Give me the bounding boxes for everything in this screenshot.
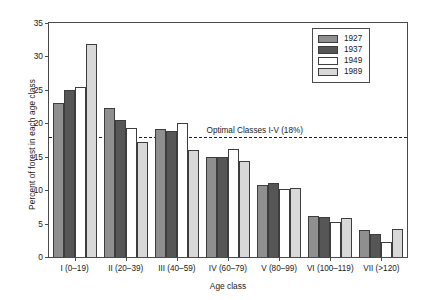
bar-group: I (0–19) <box>49 23 100 257</box>
legend-item[interactable]: 1937 <box>318 45 362 55</box>
bar-1927[interactable] <box>359 230 370 257</box>
x-axis-tick-mark <box>381 257 382 261</box>
x-axis-tick-mark <box>279 257 280 261</box>
bar-1949[interactable] <box>75 87 86 257</box>
y-axis-tick-label: 0 <box>38 252 49 262</box>
legend-swatch-icon <box>318 57 338 65</box>
bar-1927[interactable] <box>53 103 64 257</box>
bar-group: III (40–59) <box>151 23 202 257</box>
bar-1937[interactable] <box>115 120 126 257</box>
x-axis-tick-mark <box>330 257 331 261</box>
y-axis-tick-label: 10 <box>34 185 49 195</box>
legend-item[interactable]: 1949 <box>318 56 362 66</box>
legend-swatch-icon <box>318 46 338 54</box>
legend-label: 1949 <box>344 57 362 65</box>
bar-1989[interactable] <box>188 150 199 257</box>
bar-1989[interactable] <box>341 218 352 257</box>
bar-1949[interactable] <box>228 149 239 257</box>
bar-1949[interactable] <box>126 128 137 257</box>
y-axis-tick-label: 35 <box>34 18 49 28</box>
legend-label: 1937 <box>344 46 362 54</box>
x-axis-tick-label: V (80–99) <box>261 264 297 273</box>
bar-1937[interactable] <box>217 157 228 257</box>
bar-1949[interactable] <box>381 242 392 257</box>
legend: 1927193719491989 <box>312 28 370 83</box>
legend-swatch-icon <box>318 35 338 43</box>
bar-1989[interactable] <box>392 229 403 257</box>
bar-1927[interactable] <box>206 157 217 257</box>
bar-1927[interactable] <box>104 108 115 257</box>
bar-1949[interactable] <box>279 189 290 257</box>
y-axis-tick-label: 20 <box>34 118 49 128</box>
x-axis-tick-label: IV (60–79) <box>209 264 247 273</box>
x-axis-tick-mark <box>177 257 178 261</box>
bar-1937[interactable] <box>319 217 330 257</box>
legend-swatch-icon <box>318 68 338 76</box>
legend-label: 1989 <box>344 68 362 76</box>
bar-1937[interactable] <box>268 183 279 257</box>
x-axis-tick-mark <box>75 257 76 261</box>
legend-label: 1927 <box>344 35 362 43</box>
y-axis-tick-label: 25 <box>34 85 49 95</box>
bar-1989[interactable] <box>86 44 97 257</box>
bar-1949[interactable] <box>330 222 341 257</box>
x-axis-title: Age class <box>48 281 408 291</box>
bar-group: II (20–39) <box>100 23 151 257</box>
y-axis-tick-label: 15 <box>34 152 49 162</box>
x-axis-tick-label: I (0–19) <box>60 264 88 273</box>
x-axis-tick-label: II (20–39) <box>108 264 143 273</box>
y-axis-tick-label: 5 <box>38 219 49 229</box>
x-axis-tick-label: VI (100–119) <box>307 264 354 273</box>
x-axis-tick-label: III (40–59) <box>158 264 195 273</box>
bar-group: IV (60–79) <box>202 23 253 257</box>
bar-1927[interactable] <box>308 216 319 257</box>
bar-1937[interactable] <box>166 131 177 257</box>
bar-1927[interactable] <box>257 185 268 257</box>
bar-1927[interactable] <box>155 129 166 257</box>
bar-1989[interactable] <box>290 188 301 257</box>
y-axis-tick-label: 30 <box>34 51 49 61</box>
bar-1937[interactable] <box>370 234 381 257</box>
legend-item[interactable]: 1989 <box>318 67 362 77</box>
x-axis-tick-label: VII (>120) <box>363 264 399 273</box>
chart-figure: Percent of forest in each age class 0510… <box>0 0 425 300</box>
bar-1989[interactable] <box>137 142 148 257</box>
bar-group: V (80–99) <box>254 23 305 257</box>
bar-1949[interactable] <box>177 123 188 257</box>
y-axis-title: Percent of forest in each age class <box>28 45 37 245</box>
bar-1937[interactable] <box>64 90 75 257</box>
x-axis-tick-mark <box>126 257 127 261</box>
bar-1989[interactable] <box>239 161 250 257</box>
legend-item[interactable]: 1927 <box>318 34 362 44</box>
x-axis-tick-mark <box>228 257 229 261</box>
